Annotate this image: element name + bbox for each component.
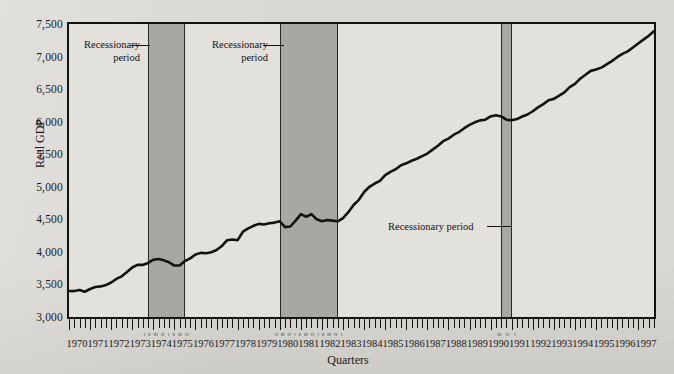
x-axis-year-label: 1972 — [109, 338, 130, 349]
x-axis-tick — [280, 319, 281, 330]
x-axis-tick — [538, 319, 539, 328]
x-axis-tick — [438, 319, 439, 328]
x-axis-tick — [174, 319, 175, 330]
x-axis-tick — [195, 319, 196, 330]
x-axis-tick — [369, 319, 370, 328]
x-axis-tick — [243, 319, 244, 328]
x-axis-tick — [580, 319, 581, 328]
x-axis-tick — [180, 319, 181, 328]
x-axis-year-label: 1997 — [636, 338, 657, 349]
y-axis-tick-label: 3,000 — [36, 311, 63, 323]
x-axis-tick — [143, 319, 144, 328]
x-axis-tick — [559, 319, 560, 328]
x-axis-tick — [296, 319, 297, 328]
x-axis-tick — [591, 319, 592, 328]
x-axis-tick — [417, 319, 418, 328]
x-axis-tick — [322, 319, 323, 330]
x-axis-tick — [638, 319, 639, 330]
annotation-line: Recessionary period — [388, 220, 473, 233]
x-axis-tick — [390, 319, 391, 328]
x-axis-tick — [285, 319, 286, 328]
x-axis-tick — [522, 319, 523, 328]
x-axis-year-label: 1973 — [130, 338, 151, 349]
x-axis-tick — [459, 319, 460, 328]
x-axis-tick — [159, 319, 160, 328]
x-axis-tick — [275, 319, 276, 328]
x-axis-year-label: 1984 — [362, 338, 383, 349]
x-axis-tick — [74, 319, 75, 328]
y-axis-tick-label: 4,000 — [36, 246, 63, 258]
gdp-line-path — [69, 31, 654, 292]
x-axis-tick — [528, 319, 529, 328]
x-axis-tick — [127, 319, 128, 328]
x-axis-tick — [385, 319, 386, 330]
x-axis-year-label: 1993 — [551, 338, 572, 349]
x-axis-tick — [80, 319, 81, 328]
x-axis-tick — [422, 319, 423, 328]
x-axis-tick — [238, 319, 239, 330]
plot-area — [67, 22, 656, 319]
x-axis-tick — [217, 319, 218, 330]
x-axis-tick — [612, 319, 613, 328]
x-axis-tick — [169, 319, 170, 328]
x-axis-tick — [264, 319, 265, 328]
x-axis-tick — [338, 319, 339, 328]
x-axis-tick — [585, 319, 586, 328]
x-axis-year-label: 1987 — [425, 338, 446, 349]
x-axis-tick — [227, 319, 228, 328]
x-axis-tick — [190, 319, 191, 328]
annotation-line: period — [212, 51, 268, 64]
x-axis-tick — [253, 319, 254, 328]
x-axis-tick — [164, 319, 165, 328]
x-axis-tick — [628, 319, 629, 328]
x-axis-tick — [512, 319, 513, 330]
x-axis-tick — [649, 319, 650, 328]
x-axis-tick — [69, 319, 70, 330]
x-axis-tick — [138, 319, 139, 328]
x-axis-tick — [454, 319, 455, 328]
x-axis-year-label: 1994 — [572, 338, 593, 349]
x-axis-tick — [617, 319, 618, 330]
x-axis-year-label: 1977 — [214, 338, 235, 349]
y-axis-title: Real GDP — [33, 84, 48, 204]
x-axis-tick — [306, 319, 307, 328]
x-axis-tick — [153, 319, 154, 330]
x-axis-tick — [622, 319, 623, 328]
x-axis-tick — [485, 319, 486, 328]
x-axis-tick — [301, 319, 302, 330]
x-axis-tick — [475, 319, 476, 328]
x-axis-tick — [290, 319, 291, 328]
x-axis-tick — [654, 319, 655, 328]
x-axis-tick — [101, 319, 102, 328]
annotation-leader-line — [263, 45, 284, 46]
annotation-line: Recessionary — [212, 38, 268, 51]
x-axis-tick — [570, 319, 571, 328]
x-axis-tick — [633, 319, 634, 328]
x-axis-year-label: 1980 — [277, 338, 298, 349]
x-axis-tick — [380, 319, 381, 328]
x-axis-tick — [354, 319, 355, 328]
y-axis-tick-label: 4,500 — [36, 213, 63, 225]
x-axis-tick — [211, 319, 212, 328]
x-axis-tick — [206, 319, 207, 328]
x-axis-tick — [643, 319, 644, 328]
chart-figure: 3,0003,5004,0004,5005,0005,5006,0006,500… — [0, 0, 674, 374]
x-axis-tick — [185, 319, 186, 328]
x-axis-year-label: 1974 — [151, 338, 172, 349]
x-axis-tick — [448, 319, 449, 330]
x-axis-title: Quarters — [0, 353, 674, 368]
x-axis-tick — [327, 319, 328, 328]
x-axis-tick — [443, 319, 444, 328]
plot-inner — [69, 24, 654, 317]
x-axis-year-label: 1970 — [66, 338, 87, 349]
x-axis-tick — [412, 319, 413, 328]
x-axis-tick — [222, 319, 223, 328]
x-axis-year-label: 1989 — [467, 338, 488, 349]
x-axis-tick — [596, 319, 597, 330]
x-axis-tick — [122, 319, 123, 328]
x-axis-tick — [549, 319, 550, 328]
x-axis-year-label: 1996 — [615, 338, 636, 349]
x-axis-tick — [575, 319, 576, 330]
x-axis-tick — [311, 319, 312, 328]
x-axis-year-label: 1990 — [488, 338, 509, 349]
